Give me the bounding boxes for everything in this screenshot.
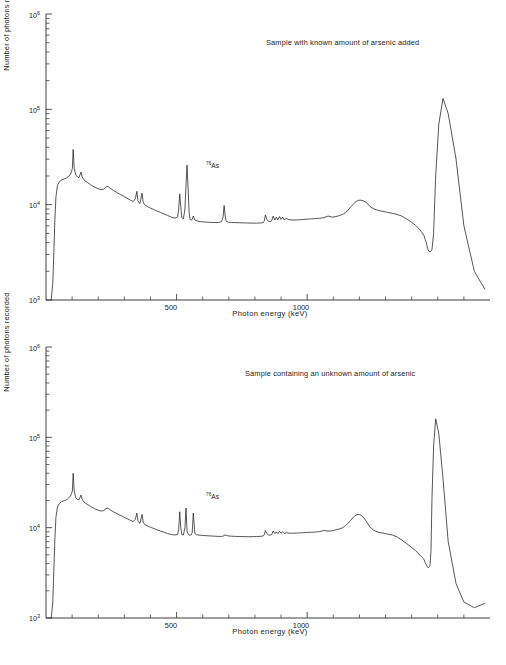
- chart-panel-unknown: Number of photons recorded Photon energy…: [0, 333, 506, 665]
- x-axis-ticks: [72, 294, 464, 300]
- spectrum-plot-known: [0, 0, 506, 332]
- x-tick-1000: 1000: [281, 621, 321, 630]
- spectrum-trace: [51, 419, 485, 618]
- y-tick-1e5: 105: [14, 105, 40, 115]
- y-tick-1e4: 104: [14, 523, 40, 533]
- x-tick-500: 500: [151, 303, 191, 312]
- as76-annotation-unknown: 76As: [206, 492, 219, 500]
- y-tick-1e4: 104: [14, 200, 40, 210]
- spectrum-plot-unknown: [0, 333, 506, 665]
- axis-lines: [46, 347, 490, 618]
- x-tick-500: 500: [151, 621, 191, 630]
- as76-annotation-known: 76As: [206, 161, 219, 169]
- chart-panel-known: Number of photons recorded Photon energy…: [0, 0, 506, 332]
- panel-caption-unknown: Sample containing an unknown amount of a…: [245, 369, 415, 378]
- spectrum-trace: [51, 98, 485, 300]
- x-tick-1000: 1000: [281, 303, 321, 312]
- y-axis-title: Number of photons recorded: [2, 0, 11, 96]
- axis-lines: [46, 14, 490, 300]
- y-axis-ticks: [46, 347, 52, 618]
- y-axis-ticks: [46, 14, 52, 300]
- y-tick-1e5: 105: [14, 433, 40, 443]
- y-tick-1e6: 106: [14, 10, 40, 20]
- axes-known: [46, 14, 490, 300]
- y-tick-1e3: 103: [14, 613, 40, 623]
- axes-unknown: [46, 347, 490, 618]
- y-axis-title: Number of photons recorded: [2, 267, 11, 417]
- y-tick-1e3: 103: [14, 295, 40, 305]
- y-tick-1e6: 106: [14, 343, 40, 353]
- panel-caption-known: Sample with known amount of arsenic adde…: [266, 38, 419, 47]
- x-axis-ticks: [72, 612, 464, 618]
